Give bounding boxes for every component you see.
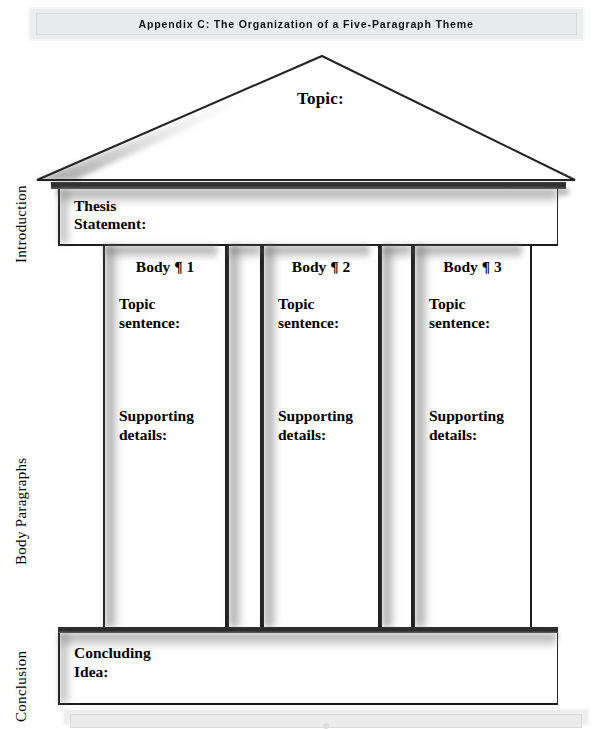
body-column-1-heading: Body ¶ 1 [105,258,225,276]
column-spacer-1 [227,246,262,627]
roof-triangle-svg [35,54,577,182]
body-column-1-supporting-details: Supportingdetails: [119,406,194,444]
body-column-3: Body ¶ 3 Topicsentence: Supportingdetail… [413,246,532,627]
footer-center-dot [323,723,329,729]
column-1-left-shading [106,246,120,627]
roof-topic-label: Topic: [297,89,344,109]
roof-pediment [35,54,577,182]
side-label-body-paragraphs: Body Paragraphs [13,458,30,565]
body-column-2-topic-sentence: Topicsentence: [278,294,339,332]
spacer-2-top-shading [382,246,411,260]
thesis-statement-label: ThesisStatement: [74,197,146,233]
column-spacer-2 [380,246,413,627]
body-column-2-supporting-details: Supportingdetails: [278,406,353,444]
concluding-idea-label: ConcludingIdea: [74,643,151,681]
body-column-3-heading: Body ¶ 3 [415,258,530,276]
thesis-left-shading [60,189,72,244]
body-column-1-topic-sentence: Topicsentence: [119,294,180,332]
footer-bar-inner [70,714,582,728]
body-column-3-topic-sentence: Topicsentence: [429,294,490,332]
side-label-introduction: Introduction [13,185,30,263]
side-label-conclusion: Conclusion [13,651,30,722]
spacer-2-left-shading [383,246,397,627]
cornice-bar [51,182,566,189]
conclusion-block: ConcludingIdea: [58,633,558,705]
spacer-1-left-shading [230,246,244,627]
base-left-shading [60,633,72,703]
column-3-left-shading [416,246,430,627]
body-column-2: Body ¶ 2 Topicsentence: Supportingdetail… [262,246,380,627]
spacer-1-top-shading [229,246,260,260]
column-2-left-shading [265,246,279,627]
body-column-3-supporting-details: Supportingdetails: [429,406,504,444]
body-column-1: Body ¶ 1 Topicsentence: Supportingdetail… [103,246,227,627]
footer-bar [62,708,590,726]
thesis-statement-block: ThesisStatement: [58,189,558,246]
body-column-2-heading: Body ¶ 2 [264,258,378,276]
